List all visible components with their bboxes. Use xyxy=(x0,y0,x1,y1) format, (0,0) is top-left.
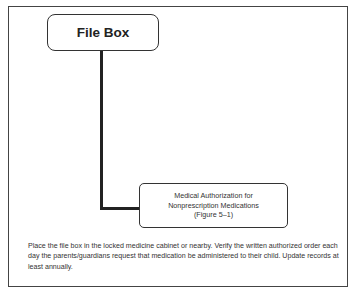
node-line-3: (Figure 5–1) xyxy=(194,210,233,220)
medical-authorization-node: Medical Authorization for Nonprescriptio… xyxy=(139,183,288,228)
node-line-1: Medical Authorization for xyxy=(174,191,253,201)
node-line-2: Nonprescription Medications xyxy=(168,201,259,211)
file-box-node: File Box xyxy=(47,14,159,51)
connector-vertical xyxy=(100,51,103,210)
connector-horizontal xyxy=(100,207,140,210)
instruction-note: Place the file box in the locked medicin… xyxy=(28,241,348,272)
file-box-label: File Box xyxy=(77,25,130,40)
